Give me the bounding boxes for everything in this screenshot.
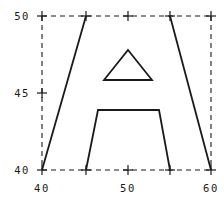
a-left-outer-leg	[42, 16, 86, 170]
a-inner-trapezoid	[86, 110, 170, 170]
a-inner-triangle	[104, 50, 152, 80]
y-axis-label-45: 45	[14, 87, 30, 99]
y-mid-tick-mark	[37, 88, 47, 98]
a-right-outer-leg	[170, 16, 211, 170]
chart-canvas: 50 45 40 40 50 60	[0, 0, 224, 200]
letter-a-outline	[42, 16, 211, 170]
plot-frame	[42, 16, 211, 170]
x-axis-label-50: 50	[120, 182, 136, 194]
x-axis-label-40: 40	[34, 182, 50, 194]
x-axis-label-60: 60	[203, 182, 219, 194]
y-axis-label-50: 50	[14, 10, 30, 22]
plot-svg: 50 45 40 40 50 60	[0, 0, 224, 200]
y-axis-label-40: 40	[14, 164, 30, 176]
